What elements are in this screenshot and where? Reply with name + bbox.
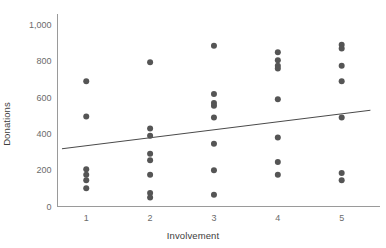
data-point <box>147 59 153 65</box>
plot-area <box>0 0 386 248</box>
data-point <box>211 141 217 147</box>
data-point <box>211 167 217 173</box>
scatter-plot-figure: Donations Involvement 02004006008001,000… <box>0 0 386 248</box>
data-point <box>339 63 345 69</box>
data-point <box>147 157 153 163</box>
data-point <box>147 125 153 131</box>
data-point <box>275 134 281 140</box>
data-point <box>147 133 153 139</box>
data-point <box>275 49 281 55</box>
data-point <box>211 115 217 121</box>
data-point <box>339 115 345 121</box>
data-point <box>83 114 89 120</box>
data-point <box>339 170 345 176</box>
data-point <box>339 78 345 84</box>
data-point <box>275 172 281 178</box>
data-point <box>211 91 217 97</box>
data-point <box>147 151 153 157</box>
data-point <box>83 78 89 84</box>
data-point <box>83 185 89 191</box>
data-point <box>275 65 281 71</box>
data-point <box>83 177 89 183</box>
data-point <box>147 194 153 200</box>
data-point <box>211 43 217 49</box>
data-point <box>83 166 89 172</box>
data-point <box>147 172 153 178</box>
data-point <box>211 192 217 198</box>
data-point <box>339 177 345 183</box>
data-point <box>211 103 217 109</box>
data-point <box>339 46 345 52</box>
data-point <box>83 172 89 178</box>
data-points <box>83 42 344 201</box>
data-point <box>275 159 281 165</box>
data-point <box>275 57 281 63</box>
data-point <box>275 96 281 102</box>
